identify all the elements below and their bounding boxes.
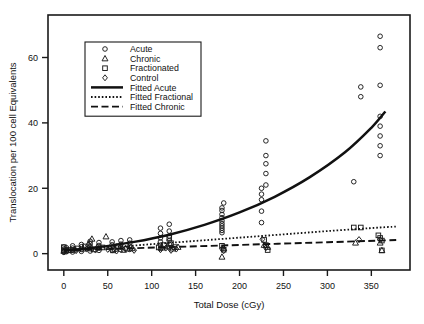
legend-label-fractionated: Fractionated [130,63,179,73]
data-point [259,186,264,191]
data-point [378,134,383,139]
chart-figure: 0501001502002503003500204060Total Dose (… [0,0,424,324]
y-axis-title: Translocation per 100 cell Equivalents [7,62,18,222]
x-tick-label-100: 100 [144,281,159,291]
data-point [358,85,363,90]
x-tick-label-300: 300 [320,281,335,291]
x-axis-title: Total Dose (cGy) [194,299,265,310]
data-point [259,192,264,197]
x-tick-label-250: 250 [276,281,291,291]
y-tick-label-60: 60 [28,53,38,63]
x-tick-label-0: 0 [61,281,66,291]
legend-label-chronic: Chronic [130,54,161,64]
y-tick-label-20: 20 [28,184,38,194]
data-point [221,201,226,206]
data-point [110,240,115,245]
y-axis: 0204060 [28,53,48,259]
data-point [259,220,264,225]
x-axis: 050100150200250300350 [61,270,379,291]
data-point [167,222,172,227]
legend-label-fitted-acute: Fitted Acute [130,83,177,93]
data-point [378,124,383,129]
legend-label-acute: Acute [130,44,153,54]
legend-label-fitted-chronic: Fitted Chronic [130,102,185,112]
data-point [378,45,383,50]
data-point [103,234,109,239]
data-point [158,231,163,236]
chart-canvas: 0501001502002503003500204060Total Dose (… [0,0,424,324]
data-point [378,34,383,39]
data-point [158,226,163,231]
data-point [264,161,269,166]
x-tick-label-350: 350 [364,281,379,291]
data-point [264,139,269,144]
x-tick-label-200: 200 [232,281,247,291]
data-point [264,183,269,188]
data-point [378,143,383,148]
data-point [167,229,172,234]
data-point [264,171,269,176]
x-tick-label-50: 50 [103,281,113,291]
y-tick-label-0: 0 [33,249,38,259]
x-tick-label-150: 150 [188,281,203,291]
data-point [259,209,264,214]
chart-legend: AcuteChronicFractionatedControlFitted Ac… [85,42,201,116]
data-point [358,94,363,99]
fitted-curves-layer [64,111,398,250]
legend-label-control: Control [130,73,158,83]
data-point [378,83,383,88]
data-point [378,153,383,158]
y-tick-label-40: 40 [28,118,38,128]
data-point [351,179,356,184]
data-point [219,254,225,259]
data-point [264,153,269,158]
legend-label-fitted-fractional: Fitted Fractional [130,92,193,102]
